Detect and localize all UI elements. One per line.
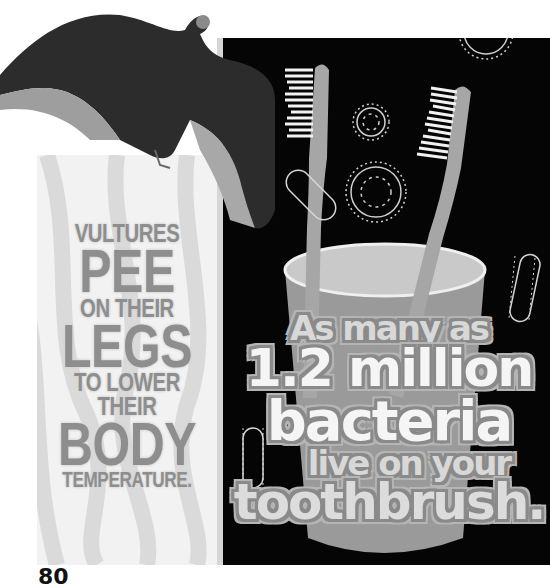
vulture-image: [0, 0, 280, 250]
fact-line: bacteria: [228, 394, 550, 447]
fact-line: LEGS: [57, 321, 197, 372]
fact-line: PEE: [57, 246, 197, 297]
fact-line: toothbrush.: [228, 479, 550, 527]
fact-line: BODY: [57, 419, 197, 470]
fact-line: 1.2 million: [228, 344, 550, 393]
fact-line: TEMPERATURE.: [57, 470, 197, 490]
vulture-fact-text: VULTURES PEE ON THEIR LEGS TO LOWER THEI…: [37, 222, 217, 490]
page-number: 80: [38, 566, 69, 584]
toothbrush-fact-text: As many as 1.2 million bacteria live on …: [228, 312, 550, 527]
